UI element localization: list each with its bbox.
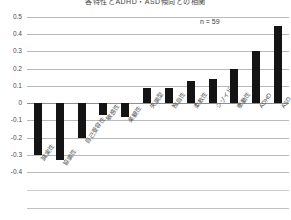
x-axis-tick-label: 協調性 (62, 148, 77, 166)
bar (99, 103, 107, 115)
y-axis-tick-label: 0.3 (0, 48, 22, 55)
sample-size-annotation: n = 59 (200, 18, 220, 25)
plot-area: 誠実性協調性自己受容性敏感性楽観性失調型独自性柔軟性シゾイド衝動性ADHDASD (27, 17, 289, 172)
y-axis-tick-label: -0.3 (0, 152, 22, 159)
chart-title: 各特性とADHD・ASD傾向との相関 (0, 0, 291, 6)
x-axis-tick-label: ADHD (258, 92, 273, 109)
y-axis-tick-label: 0.1 (0, 83, 22, 90)
y-axis-tick-label: 0.5 (0, 14, 22, 21)
x-axis-tick-label: 独自性 (171, 91, 186, 109)
x-axis-tick-label: 柔軟性 (193, 91, 208, 109)
gridline (27, 34, 289, 35)
y-axis-tick-label: 0.2 (0, 65, 22, 72)
gridline (27, 138, 289, 139)
x-axis-tick-label: 衝動性 (236, 91, 251, 109)
y-axis-tick-labels: 0.50.40.30.20.10-0.1-0.2-0.3-0.4 (0, 17, 24, 172)
gridline (27, 17, 289, 18)
bar (34, 103, 42, 155)
gridline (27, 86, 289, 87)
bar (274, 26, 282, 104)
axis-divider-upper (27, 190, 289, 191)
x-axis-tick-label: 誠実性 (40, 143, 55, 161)
bar (143, 88, 151, 104)
y-axis-tick-label: -0.1 (0, 117, 22, 124)
bar (165, 88, 173, 104)
bar-chart: 各特性とADHD・ASD傾向との相関 0.50.40.30.20.10-0.1-… (0, 0, 291, 220)
x-axis-tick-label: 敏感性 (105, 103, 120, 121)
bar (56, 103, 64, 160)
axis-divider-lower (27, 208, 289, 209)
y-axis-tick-label: 0.4 (0, 31, 22, 38)
bar (187, 81, 195, 103)
gridline (27, 51, 289, 52)
bar (252, 51, 260, 103)
bar (209, 79, 217, 103)
x-axis-tick-label: 失調型 (149, 91, 164, 109)
gridline (27, 120, 289, 121)
bar (121, 103, 129, 117)
y-axis-tick-label: 0 (0, 100, 22, 107)
bar (230, 69, 238, 103)
gridline (27, 172, 289, 173)
gridline (27, 69, 289, 70)
y-axis-tick-label: -0.2 (0, 134, 22, 141)
bar (78, 103, 86, 137)
y-axis-tick-label: -0.4 (0, 169, 22, 176)
